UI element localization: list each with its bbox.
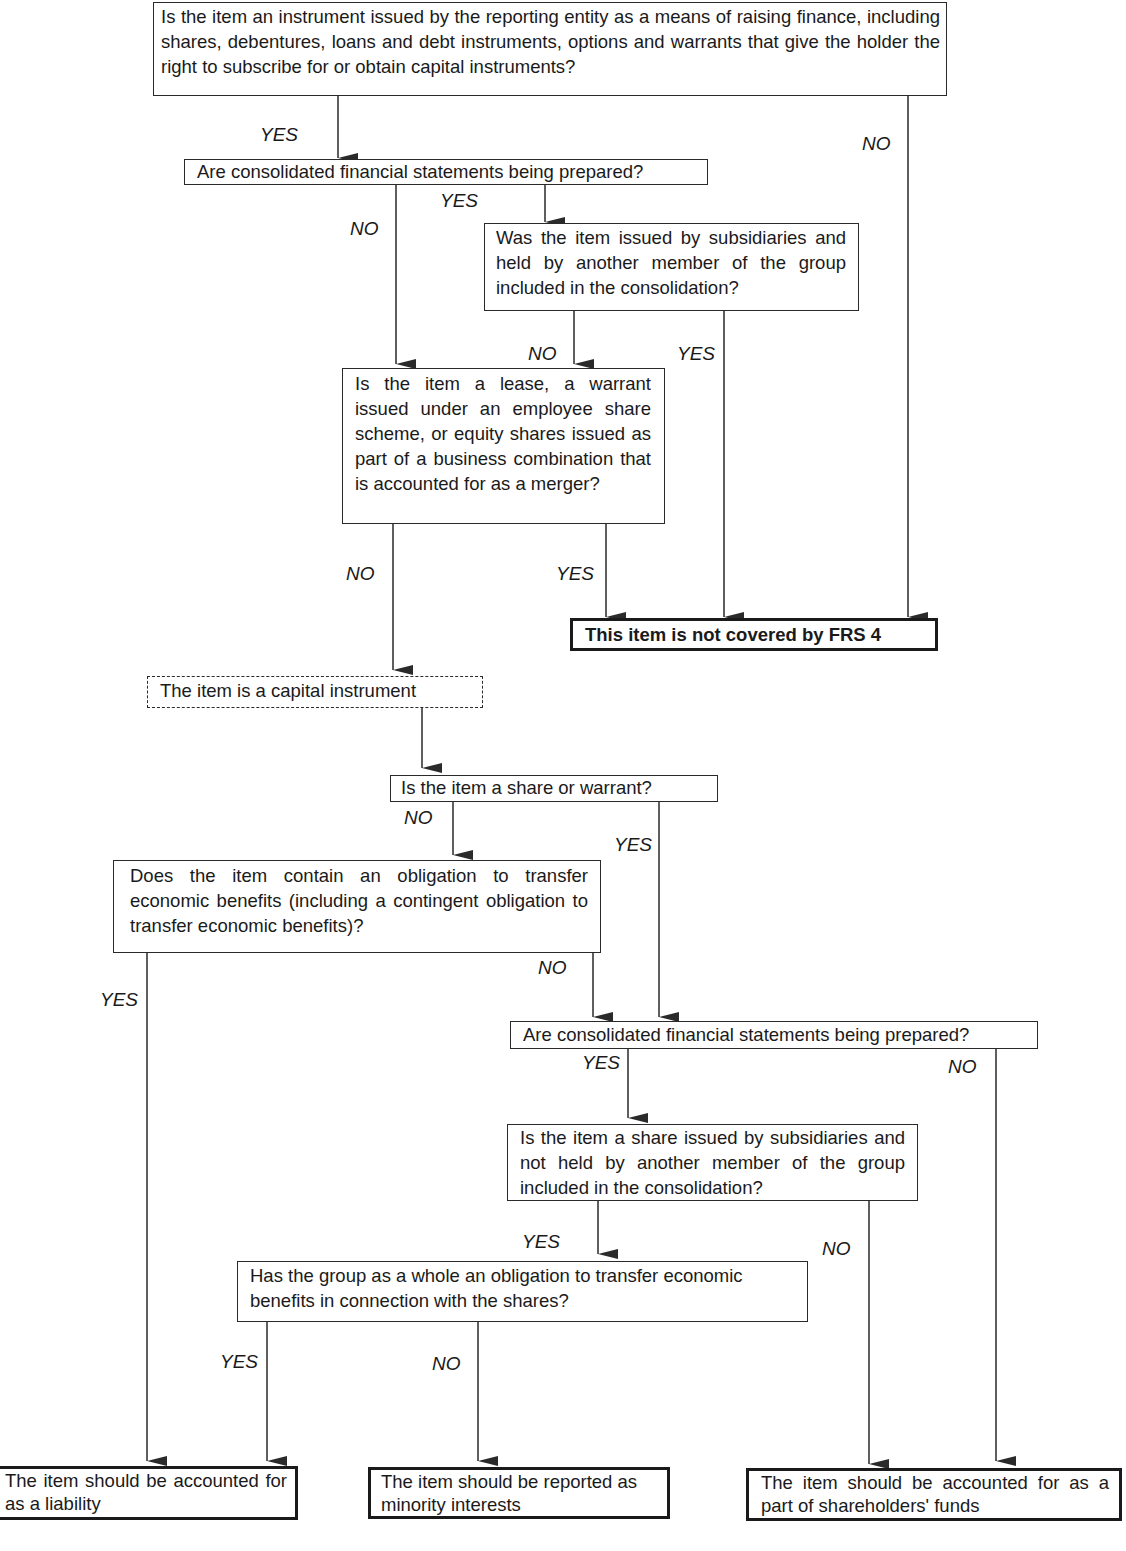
edge-label-group-obligation-yes: YES [220, 1351, 258, 1373]
question-consolidated-2-box: Are consolidated financial statements be… [510, 1021, 1038, 1049]
result-not-covered-box: This item is not covered by FRS 4 [570, 618, 938, 651]
question-subsidiaries-not-held-box: Is the item a share issued by subsidiari… [507, 1124, 918, 1201]
edge-label-subsidiaries-not-held-no: NO [822, 1238, 851, 1260]
edge-label-group-obligation-no: NO [432, 1353, 461, 1375]
edge-label-obligation-yes: YES [100, 989, 138, 1011]
question-share-or-warrant-text: Is the item a share or warrant? [401, 777, 652, 798]
result-liability-box: The item should be accounted for as a li… [0, 1466, 298, 1520]
result-minority-interests-box: The item should be reported as minority … [368, 1467, 670, 1519]
question-lease-warrant-merger-box: Is the item a lease, a warrant issued un… [342, 368, 665, 524]
edge-label-lease-yes: YES [556, 563, 594, 585]
edge-label-share-warrant-yes: YES [614, 834, 652, 856]
edge-label-obligation-no: NO [538, 957, 567, 979]
question-group-obligation-text: Has the group as a whole an obligation t… [250, 1265, 743, 1311]
result-shareholders-funds-box: The item should be accounted for as a pa… [746, 1468, 1122, 1521]
edge-label-consolidated2-yes: YES [582, 1052, 620, 1074]
result-minority-interests-text: The item should be reported as minority … [381, 1471, 637, 1515]
edge-label-lease-no: NO [346, 563, 375, 585]
edge-label-subsidiaries-not-held-yes: YES [522, 1231, 560, 1253]
edge-label-share-warrant-no: NO [404, 807, 433, 829]
edge-label-instrument-yes: YES [260, 124, 298, 146]
statement-capital-instrument-text: The item is a capital instrument [160, 680, 416, 701]
result-not-covered-text: This item is not covered by FRS 4 [585, 624, 881, 645]
edge-label-subsidiaries-held-yes: YES [677, 343, 715, 365]
edge-label-subsidiaries-held-no: NO [528, 343, 557, 365]
question-group-obligation-box: Has the group as a whole an obligation t… [237, 1261, 808, 1322]
statement-capital-instrument-box: The item is a capital instrument [147, 676, 483, 708]
result-liability-text: The item should be accounted for as a li… [5, 1470, 287, 1514]
question-subsidiaries-held-box: Was the item issued by subsidiaries and … [484, 223, 859, 311]
question-instrument-text: Is the item an instrument issued by the … [161, 6, 940, 77]
edge-label-consolidated2-no: NO [948, 1056, 977, 1078]
edge-label-consolidated1-no: NO [350, 218, 379, 240]
edge-label-instrument-no: NO [862, 133, 891, 155]
edge-label-consolidated1-yes: YES [440, 190, 478, 212]
question-consolidated-1-text: Are consolidated financial statements be… [197, 161, 643, 182]
question-consolidated-1-box: Are consolidated financial statements be… [184, 159, 708, 185]
question-consolidated-2-text: Are consolidated financial statements be… [523, 1024, 969, 1045]
question-subsidiaries-held-text: Was the item issued by subsidiaries and … [496, 227, 846, 298]
question-obligation-box: Does the item contain an obligation to t… [113, 860, 601, 953]
question-share-or-warrant-box: Is the item a share or warrant? [390, 775, 718, 802]
result-shareholders-funds-text: The item should be accounted for as a pa… [761, 1472, 1109, 1516]
question-lease-warrant-merger-text: Is the item a lease, a warrant issued un… [355, 373, 651, 494]
question-instrument-box: Is the item an instrument issued by the … [153, 2, 947, 96]
question-obligation-text: Does the item contain an obligation to t… [130, 865, 588, 936]
question-subsidiaries-not-held-text: Is the item a share issued by subsidiari… [520, 1127, 905, 1198]
